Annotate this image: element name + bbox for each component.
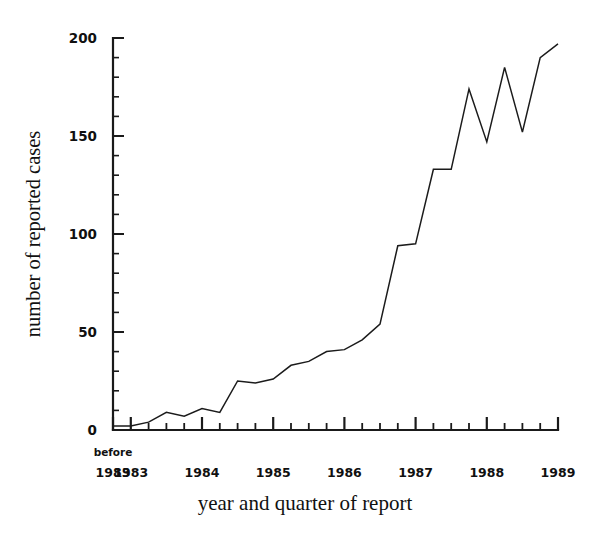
x-tick-label: 1987 bbox=[398, 465, 433, 480]
x-tick-label: 1983 bbox=[113, 465, 148, 480]
y-axis-title: number of reported cases bbox=[22, 131, 45, 338]
y-tick-label: 100 bbox=[69, 226, 97, 242]
line-chart: number of reported cases year and quarte… bbox=[0, 0, 597, 533]
x-tick-label: 1985 bbox=[256, 465, 291, 480]
chart-figure: number of reported cases year and quarte… bbox=[0, 0, 597, 533]
x-axis-title: year and quarter of report bbox=[198, 491, 413, 515]
x-axis-tick-labels: before19831983198419851986198719881989 bbox=[94, 446, 576, 480]
y-tick-label: 200 bbox=[69, 30, 97, 46]
x-tick-label: 1986 bbox=[327, 465, 362, 480]
data-series-line bbox=[113, 44, 558, 426]
x-axis-ticks bbox=[113, 417, 558, 430]
y-tick-label: 150 bbox=[69, 128, 97, 144]
y-axis-ticks bbox=[113, 38, 124, 430]
y-tick-label: 0 bbox=[88, 422, 97, 438]
y-axis-tick-labels: 050100150200 bbox=[69, 30, 97, 438]
x-tick-label: 1988 bbox=[469, 465, 504, 480]
x-tick-label: 1989 bbox=[541, 465, 576, 480]
x-tick-label-sub: before bbox=[94, 446, 133, 458]
axes-group bbox=[113, 38, 558, 430]
y-tick-label: 50 bbox=[78, 324, 97, 340]
x-tick-label: 1984 bbox=[185, 465, 220, 480]
